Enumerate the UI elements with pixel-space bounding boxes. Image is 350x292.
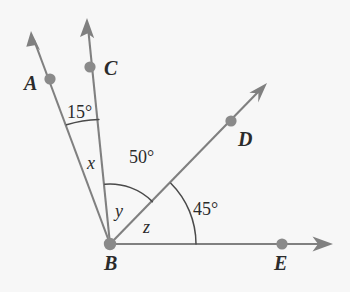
point-labels-group: A C D E B: [22, 57, 287, 274]
ray-ba-arrowhead: [26, 31, 40, 51]
angle-diagram: A C D E B 15° 50° 45° x y z: [0, 0, 350, 292]
point-label-c: C: [104, 57, 118, 79]
point-dots-group: [44, 61, 287, 250]
rays-group: [26, 18, 333, 252]
angle-label-15-degree: 15°: [67, 102, 92, 122]
dot-b: [104, 238, 116, 250]
angle-label-50-degree: 50°: [129, 147, 154, 167]
ray-bd: [110, 90, 260, 244]
angle-label-z: z: [142, 217, 150, 237]
point-label-d: D: [237, 128, 252, 150]
angle-label-45-degree: 45°: [193, 199, 218, 219]
arc-50-degree: [105, 184, 153, 202]
point-label-e: E: [273, 252, 287, 274]
point-label-a: A: [22, 72, 37, 94]
ray-bc-arrowhead: [80, 18, 94, 38]
dot-e: [276, 238, 287, 249]
point-label-b: B: [103, 252, 117, 274]
dot-a: [44, 73, 55, 84]
dot-c: [84, 61, 95, 72]
ray-ba: [34, 40, 110, 244]
dot-d: [225, 115, 236, 126]
angle-label-x: x: [86, 153, 95, 173]
angle-labels-group: 15° 50° 45° x y z: [67, 102, 218, 237]
angle-label-y: y: [113, 201, 123, 221]
